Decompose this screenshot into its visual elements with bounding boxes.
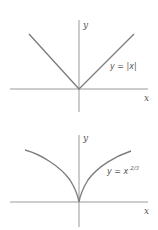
equation-label: y = x2/3 (106, 165, 140, 176)
y-axis-label: y (82, 20, 89, 30)
graph-x-two-thirds: y x y = x2/3 (10, 133, 149, 227)
equation-text: y = |x| (109, 62, 137, 71)
equation-label: y = |x| (109, 62, 137, 71)
function-graphs-figure: y x y = |x| y x y = x2/3 (0, 0, 158, 230)
x-axis-label: x (144, 206, 149, 216)
equation-text: y = x (106, 167, 129, 176)
x-axis-label: x (144, 93, 149, 103)
y-axis-label: y (82, 133, 89, 143)
power-curve (25, 150, 131, 202)
graph-abs-x: y x y = |x| (10, 20, 149, 112)
equation-exponent: 2/3 (130, 165, 139, 171)
